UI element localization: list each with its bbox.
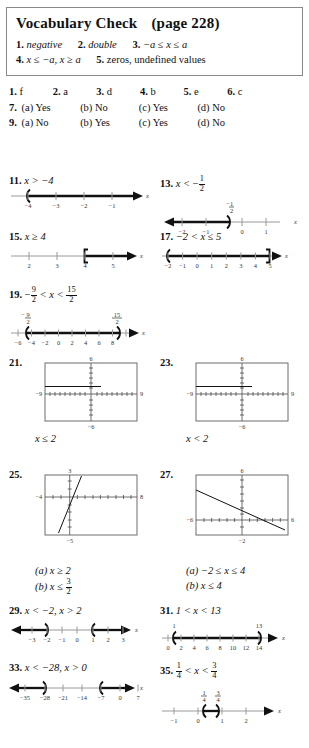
short-answer-row-1: 1. f 2. a 3. d 4. b 5. e 6. c: [9, 84, 309, 100]
vocabulary-check-box: Vocabulary Check(page 228) 1. negative 2…: [6, 7, 303, 76]
p31-tick-label-6: 12: [243, 644, 249, 651]
p17-tick-label-3: 1: [210, 262, 213, 269]
problem-27-subanswers: (a) −2 ≤ x ≤ 4 (b) x ≤ 4: [186, 563, 245, 593]
problem-15: 15. x ≥ 4 2 3 4 5 x: [9, 231, 149, 276]
problem-33-answer: x < −28, x > 0: [25, 662, 87, 673]
problem-13-num: 13.: [160, 178, 173, 189]
p19-tick-label-0: −6: [15, 339, 22, 346]
problem-19: 19. −92 < x < 152 −6 −4 −2 0 2 4: [9, 286, 159, 351]
vocab-item-3-num: 3.: [132, 39, 140, 50]
vocab-item-4-text: x ≤ −a, x ≥ a: [27, 54, 81, 65]
ans-7c-label: (c): [139, 102, 151, 113]
problem-21-graph: 6 −6 −9 9: [31, 355, 161, 430]
vocabulary-title-text: Vocabulary Check: [16, 15, 137, 31]
p31-endpoint-left-label: 1: [172, 622, 175, 629]
p17-tick-label-0: −2: [165, 262, 172, 269]
ans-9a-label: (a): [22, 117, 34, 128]
ans-1-value: f: [20, 86, 24, 97]
p27-x-right-label: 6: [291, 516, 294, 523]
problem-21-num-wrap: 21.: [9, 357, 22, 368]
ans-7d-label: (d): [197, 102, 209, 113]
p27-x-left-label: −6: [186, 516, 193, 523]
problem-33: 33. x < −28, x > 0 −35 −28 −21 −14 −7 0 …: [9, 662, 157, 708]
p29-tick-label-2: −1: [59, 636, 66, 643]
ans-9a-value: No: [36, 117, 49, 128]
p11-tick-label-3: −1: [109, 202, 116, 209]
svg-text:−: −: [21, 311, 25, 318]
p23-x-right-label: 9: [291, 390, 294, 397]
p29-tick-label-4: 1: [91, 636, 94, 643]
ans-7-num: 7.: [9, 102, 17, 113]
p33-tick-label-6: 7: [136, 694, 140, 701]
problem-17-numberline: −2 −1 0 1 2 3 4 5 x: [160, 246, 300, 276]
answer-key-page: Vocabulary Check(page 228) 1. negative 2…: [0, 7, 309, 748]
problem-27-num-wrap: 27.: [160, 469, 173, 480]
problem-29-label: 29. x < −2, x > 2: [9, 605, 154, 616]
svg-text:x: x: [139, 252, 143, 259]
p11-tick-label-0: −4: [25, 202, 33, 209]
p25-x-left-label: −4: [35, 493, 42, 500]
problem-11-numberline: −4 −3 −2 −1 x: [9, 186, 149, 216]
p19-tick-label-7: 8: [111, 339, 114, 346]
ans-3-num: 3.: [96, 86, 104, 97]
svg-text:x: x: [284, 252, 288, 259]
problem-27: 27. 6 −2 −6 6: [160, 467, 309, 545]
problem-21-caption: x ≤ 2: [35, 433, 161, 444]
problem-17: 17. −2 < x ≤ 5 −2 −1 0 1 2 3 4 5 x: [160, 231, 300, 276]
problem-23-num: 23.: [160, 357, 173, 368]
svg-text:x: x: [141, 329, 145, 336]
ans-7a-value: Yes: [35, 102, 50, 113]
p31-tick-label-7: 14: [256, 644, 263, 651]
p19-endpoint-right-top: 15: [114, 311, 120, 318]
ans-7b-value: No: [95, 102, 108, 113]
problem-29: 29. x < −2, x > 2 −3 −2 −1 0 1 2 3 x: [9, 605, 154, 650]
problem-31-num: 31.: [160, 605, 173, 616]
p35-tick-label-3: 2: [244, 717, 247, 724]
short-answer-row-9: 9. (a) No (b) Yes (c) Yes (d) No: [9, 115, 309, 131]
p25-x-right-label: 8: [140, 493, 143, 500]
problem-25-answer-b: (b) x ≤ 32: [35, 578, 72, 596]
p19-tick-label-4: 2: [70, 339, 73, 346]
problem-35: 35. 14 < x < 34 −1 0 1 2 x 1 4 3 4: [160, 662, 305, 731]
problem-19-num: 19.: [9, 289, 22, 300]
p33-tick-label-1: −28: [40, 694, 50, 701]
p13-endpoint-label-bottom: 2: [230, 207, 233, 214]
p25-b-frac-bottom: 2: [66, 588, 72, 597]
p35-endpoint-left-top: 1: [202, 689, 205, 696]
problem-27-graph: 6 −2 −6 6: [182, 467, 309, 545]
p33-tick-label-3: −14: [77, 694, 88, 701]
p31-tick-label-1: 2: [179, 644, 182, 651]
ans-7c-value: Yes: [153, 102, 168, 113]
p17-tick-label-5: 3: [239, 262, 242, 269]
problem-21: 21. 6 −6 −9: [9, 355, 161, 444]
problem-15-num: 15.: [9, 231, 22, 242]
p15-tick-label-3: 5: [111, 262, 114, 269]
problem-19-numberline: −6 −4 −2 0 2 4 6 8 x − 9 2 15 2: [9, 313, 159, 351]
p13-endpoint-label-top: 1: [230, 200, 233, 207]
vocabulary-page-ref: (page 228): [151, 15, 219, 31]
vocab-item-1-text: negative: [27, 39, 63, 50]
p33-tick-label-0: −35: [20, 694, 30, 701]
ans-5-num: 5.: [184, 86, 192, 97]
ans-9d-label: (d): [197, 117, 209, 128]
problem-33-num: 33.: [9, 662, 22, 673]
svg-text:x: x: [134, 626, 138, 633]
p19-right-frac-bottom: 2: [66, 296, 76, 305]
p29-tick-label-3: 0: [75, 636, 78, 643]
p17-tick-label-2: 0: [195, 262, 198, 269]
ans-9-num: 9.: [9, 117, 17, 128]
problem-17-label: 17. −2 < x ≤ 5: [160, 231, 300, 242]
problem-13-answer-prefix: x <: [176, 178, 190, 189]
p19-tick-label-3: 0: [57, 339, 60, 346]
problem-35-label: 35. 14 < x < 34: [160, 662, 305, 680]
p21-x-right-label: 9: [140, 390, 143, 397]
svg-text:x: x: [277, 707, 281, 714]
vocabulary-check-title: Vocabulary Check(page 228): [16, 15, 293, 32]
p35-endpoint-right-bottom: 4: [216, 696, 220, 703]
ans-5-value: e: [194, 86, 199, 97]
p19-tick-label-6: 6: [97, 339, 100, 346]
svg-text:x: x: [139, 684, 143, 691]
problem-11: 11. x > −4 −4 −3 −2 −1 x: [9, 175, 149, 216]
p11-tick-label-2: −2: [81, 202, 88, 209]
p35-endpoint-left-bottom: 4: [202, 696, 206, 703]
